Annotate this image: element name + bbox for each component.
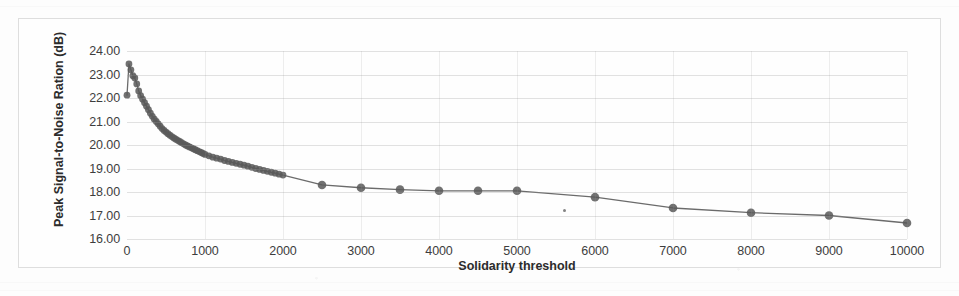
y-axis-title: Peak Signal-to-Noise Ration (dB) bbox=[51, 37, 67, 227]
y-tick-label: 18.00 bbox=[89, 185, 120, 199]
y-tick-label: 22.00 bbox=[89, 91, 120, 105]
x-tick-label: 9000 bbox=[815, 244, 842, 258]
x-tick-label: 6000 bbox=[581, 244, 608, 258]
x-tick-label: 10000 bbox=[890, 244, 924, 258]
x-tick-label: 3000 bbox=[347, 244, 374, 258]
gridline-vertical bbox=[205, 51, 206, 239]
gridline-horizontal bbox=[127, 239, 907, 240]
gridline-vertical bbox=[673, 51, 674, 239]
x-tick-label: 7000 bbox=[659, 244, 686, 258]
chart-frame: Peak Signal-to-Noise Ration (dB) Solidar… bbox=[18, 18, 941, 268]
y-tick-label: 17.00 bbox=[89, 209, 120, 223]
gridline-vertical bbox=[517, 51, 518, 239]
data-point-marker bbox=[128, 66, 135, 73]
scan-artifact-streak bbox=[0, 290, 959, 291]
gridline-vertical bbox=[361, 51, 362, 239]
y-tick-label: 16.00 bbox=[89, 232, 120, 246]
x-tick-label: 2000 bbox=[269, 244, 296, 258]
data-point-marker bbox=[318, 181, 327, 190]
y-tick-label: 24.00 bbox=[89, 44, 120, 58]
y-tick-label: 21.00 bbox=[89, 115, 120, 129]
x-axis-title: Solidarity threshold bbox=[127, 259, 907, 273]
gridline-vertical bbox=[907, 51, 908, 239]
x-tick-label: 4000 bbox=[425, 244, 452, 258]
y-tick-label: 19.00 bbox=[89, 162, 120, 176]
data-point-marker bbox=[126, 61, 133, 68]
scan-artifact-speck bbox=[563, 209, 566, 212]
gridline-vertical bbox=[283, 51, 284, 239]
data-point-marker bbox=[474, 187, 483, 196]
scanned-page-background: Peak Signal-to-Noise Ration (dB) Solidar… bbox=[0, 0, 959, 296]
scan-artifact-streak bbox=[0, 6, 959, 7]
y-tick-label: 20.00 bbox=[89, 138, 120, 152]
data-point-marker bbox=[131, 75, 138, 82]
data-point-marker bbox=[133, 81, 140, 88]
x-tick-label: 8000 bbox=[737, 244, 764, 258]
plot-area: 16.0017.0018.0019.0020.0021.0022.0023.00… bbox=[127, 51, 907, 239]
gridline-vertical bbox=[829, 51, 830, 239]
x-tick-label: 5000 bbox=[503, 244, 530, 258]
gridline-vertical bbox=[751, 51, 752, 239]
x-tick-label: 0 bbox=[124, 244, 131, 258]
gridline-vertical bbox=[439, 51, 440, 239]
x-tick-label: 1000 bbox=[191, 244, 218, 258]
gridline-vertical bbox=[595, 51, 596, 239]
y-tick-label: 23.00 bbox=[89, 68, 120, 82]
scan-artifact-streak bbox=[0, 282, 959, 283]
